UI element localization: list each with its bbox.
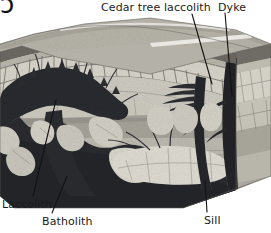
block-right-face-strata: [231, 40, 271, 220]
diagram-canvas: ɔ Cedar tree laccolith Dyke Laccolith Ba…: [0, 0, 271, 233]
label-cedar-tree-laccolith: Cedar tree laccolith: [101, 2, 211, 13]
corner-artifact-glyph: ɔ: [0, 0, 14, 17]
label-laccolith: Laccolith: [2, 199, 52, 210]
label-sill: Sill: [204, 215, 221, 226]
label-batholith: Batholith: [42, 216, 93, 227]
label-dyke: Dyke: [218, 2, 246, 13]
